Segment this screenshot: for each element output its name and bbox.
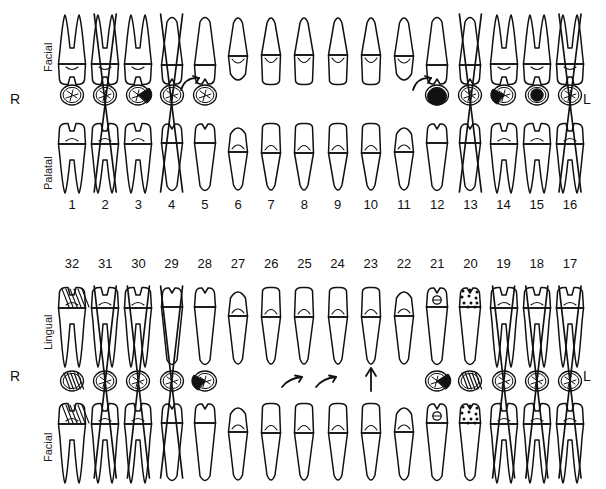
tooth-14[interactable] [487,122,521,194]
tooth-12[interactable] [420,122,454,194]
tooth-19[interactable] [487,402,521,484]
tooth-1[interactable] [55,122,89,194]
tooth-number[interactable]: 22 [389,255,419,273]
tooth-10[interactable] [354,122,388,194]
occlusal-32[interactable] [55,366,89,396]
tooth-31[interactable] [88,286,122,368]
occlusal-31[interactable] [88,366,122,396]
tooth-4[interactable] [155,122,189,194]
tooth-number[interactable]: 26 [256,255,286,273]
tooth-20[interactable] [453,286,487,368]
occlusal-29[interactable] [155,366,189,396]
tooth-number[interactable]: 15 [522,196,552,214]
tooth-number[interactable]: 25 [289,255,319,273]
occlusal-28[interactable] [188,366,222,396]
tooth-number[interactable]: 1 [57,196,87,214]
occlusal-15[interactable] [520,80,554,110]
tooth-13[interactable] [453,14,487,86]
tooth-number[interactable]: 17 [555,255,585,273]
tooth-8[interactable] [287,122,321,194]
tooth-9[interactable] [321,14,355,86]
tooth-6[interactable] [221,14,255,86]
tooth-25[interactable] [287,402,321,484]
tooth-18[interactable] [520,402,554,484]
tooth-30[interactable] [121,402,155,484]
tooth-29[interactable] [155,402,189,484]
tooth-6[interactable] [221,122,255,194]
tooth-31[interactable] [88,402,122,484]
tooth-7[interactable] [254,14,288,86]
tooth-22[interactable] [387,402,421,484]
tooth-28[interactable] [188,286,222,368]
tooth-23[interactable] [354,286,388,368]
tooth-30[interactable] [121,286,155,368]
tooth-number[interactable]: 8 [289,196,319,214]
tooth-number[interactable]: 28 [190,255,220,273]
tooth-8[interactable] [287,14,321,86]
tooth-number[interactable]: 30 [123,255,153,273]
tooth-11[interactable] [387,122,421,194]
tooth-number[interactable]: 11 [389,196,419,214]
tooth-3[interactable] [121,122,155,194]
tooth-number[interactable]: 31 [90,255,120,273]
tooth-5[interactable] [188,122,222,194]
occlusal-14[interactable] [487,80,521,110]
tooth-32[interactable] [55,402,89,484]
tooth-19[interactable] [487,286,521,368]
tooth-number[interactable]: 27 [223,255,253,273]
occlusal-2[interactable] [88,80,122,110]
tooth-number[interactable]: 20 [455,255,485,273]
tooth-32[interactable] [55,286,89,368]
tooth-10[interactable] [354,14,388,86]
tooth-number[interactable]: 7 [256,196,286,214]
tooth-7[interactable] [254,122,288,194]
tooth-number[interactable]: 9 [323,196,353,214]
tooth-25[interactable] [287,286,321,368]
occlusal-18[interactable] [520,366,554,396]
tooth-13[interactable] [453,122,487,194]
tooth-number[interactable]: 13 [455,196,485,214]
tooth-21[interactable] [420,286,454,368]
tooth-number[interactable]: 19 [489,255,519,273]
tooth-2[interactable] [88,14,122,86]
tooth-27[interactable] [221,286,255,368]
tooth-number[interactable]: 6 [223,196,253,214]
tooth-26[interactable] [254,402,288,484]
tooth-number[interactable]: 3 [123,196,153,214]
tooth-27[interactable] [221,402,255,484]
tooth-26[interactable] [254,286,288,368]
tooth-number[interactable]: 5 [190,196,220,214]
tooth-20[interactable] [453,402,487,484]
tooth-23[interactable] [354,402,388,484]
tooth-17[interactable] [553,402,587,484]
tooth-number[interactable]: 32 [57,255,87,273]
occlusal-13[interactable] [453,80,487,110]
occlusal-3[interactable] [121,80,155,110]
tooth-22[interactable] [387,286,421,368]
tooth-number[interactable]: 14 [489,196,519,214]
tooth-16[interactable] [553,122,587,194]
tooth-number[interactable]: 4 [157,196,187,214]
tooth-16[interactable] [553,14,587,86]
tooth-number[interactable]: 29 [157,255,187,273]
occlusal-21[interactable] [420,366,454,396]
tooth-14[interactable] [487,14,521,86]
tooth-3[interactable] [121,14,155,86]
tooth-1[interactable] [55,14,89,86]
occlusal-20[interactable] [453,366,487,396]
tooth-number[interactable]: 16 [555,196,585,214]
tooth-number[interactable]: 24 [323,255,353,273]
occlusal-17[interactable] [553,366,587,396]
tooth-28[interactable] [188,402,222,484]
tooth-number[interactable]: 21 [422,255,452,273]
tooth-15[interactable] [520,122,554,194]
occlusal-1[interactable] [55,80,89,110]
tooth-21[interactable] [420,402,454,484]
occlusal-16[interactable] [553,80,587,110]
tooth-9[interactable] [321,122,355,194]
tooth-number[interactable]: 10 [356,196,386,214]
tooth-number[interactable]: 12 [422,196,452,214]
tooth-18[interactable] [520,286,554,368]
tooth-24[interactable] [321,286,355,368]
tooth-15[interactable] [520,14,554,86]
